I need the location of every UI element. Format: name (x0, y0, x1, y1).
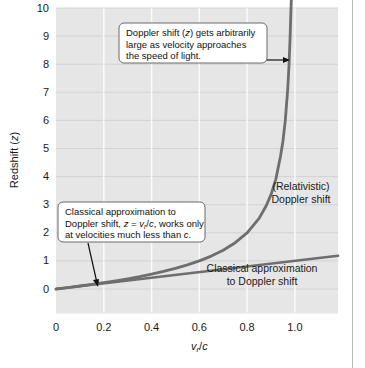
y-tick-0: 0 (43, 283, 49, 295)
relativistic-curve-label: (Relativistic) Doppler shift (272, 180, 331, 205)
x-axis-ticks: 0 0.2 0.4 0.6 0.8 1.0 (53, 321, 303, 333)
callout-classical-line3: at velocities much less than c. (65, 229, 191, 240)
x-tick-0-4: 0.4 (144, 321, 159, 333)
y-tick-6: 6 (43, 114, 49, 126)
y-tick-8: 8 (43, 58, 49, 70)
y-tick-5: 5 (43, 142, 49, 154)
x-tick-0: 0 (53, 321, 59, 333)
callout-relativistic-line3: the speed of light. (126, 50, 201, 61)
y-tick-1: 1 (43, 254, 49, 266)
y-tick-9: 9 (43, 30, 49, 42)
doppler-redshift-figure: 10 9 8 7 6 5 4 3 2 1 0 0 0.2 0.4 0.6 0.8… (0, 0, 365, 368)
y-tick-3: 3 (43, 198, 49, 210)
y-tick-10: 10 (37, 2, 49, 14)
callout-classical-line1: Classical approximation to (65, 206, 176, 217)
svg-text:vr/c: vr/c (191, 340, 208, 354)
y-tick-4: 4 (43, 170, 49, 182)
chart-canvas: 10 9 8 7 6 5 4 3 2 1 0 0 0.2 0.4 0.6 0.8… (0, 0, 365, 368)
callout-relativistic-line1: Doppler shift (z) gets arbitrarily (126, 27, 256, 38)
callout-relativistic: Doppler shift (z) gets arbitrarily large… (119, 23, 290, 63)
x-axis-title: vr/c (191, 340, 208, 354)
relativistic-label-line1: (Relativistic) (272, 180, 329, 192)
page-right-rule (352, 0, 353, 368)
y-tick-2: 2 (43, 226, 49, 238)
svg-text:Redshift (z): Redshift (z) (8, 132, 20, 188)
callout-relativistic-line2: large as velocity approaches (126, 39, 247, 50)
y-axis-title: Redshift (z) (8, 132, 20, 188)
x-tick-0-6: 0.6 (192, 321, 207, 333)
x-tick-0-2: 0.2 (96, 321, 111, 333)
relativistic-label-line2: Doppler shift (272, 193, 331, 205)
x-tick-0-8: 0.8 (239, 321, 254, 333)
y-axis-ticks: 10 9 8 7 6 5 4 3 2 1 0 (37, 2, 49, 295)
classical-label-line1: Classical approximation (207, 262, 318, 274)
y-tick-7: 7 (43, 86, 49, 98)
classical-label-line2: to Doppler shift (227, 275, 298, 287)
x-tick-1-0: 1.0 (287, 321, 302, 333)
callout-classical-line2: Doppler shift, z = vr/c, works only (65, 218, 204, 230)
